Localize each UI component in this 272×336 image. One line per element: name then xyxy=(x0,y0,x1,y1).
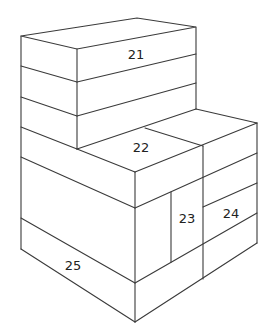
label-25: 25 xyxy=(65,258,82,273)
label-24: 24 xyxy=(223,206,240,221)
label-23: 23 xyxy=(179,211,196,226)
block-diagram: 21 22 23 24 25 xyxy=(0,0,272,336)
upper-block xyxy=(21,18,196,249)
label-22: 22 xyxy=(133,140,150,155)
labels: 21 22 23 24 25 xyxy=(65,47,240,273)
label-21: 21 xyxy=(128,47,145,62)
